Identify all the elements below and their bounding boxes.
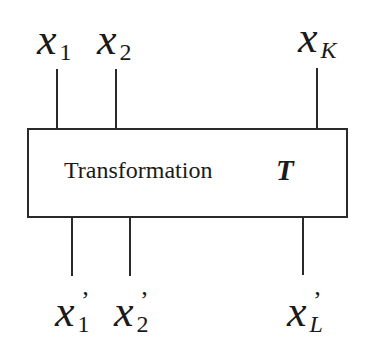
input-label-x1: x1 (37, 18, 72, 62)
transformation-label: Transformation (64, 157, 212, 184)
input-var-sub: 2 (120, 39, 132, 65)
transformation-symbol: T (276, 154, 294, 187)
input-var-sub: K (321, 37, 337, 63)
output-label-x1-prime: x’1 (55, 290, 90, 334)
output-var-sub: L (310, 311, 323, 337)
input-line-2 (115, 69, 117, 129)
input-var-sub: 1 (60, 39, 72, 65)
output-line-L (302, 216, 304, 275)
output-var-base: x (287, 287, 307, 336)
input-line-K (316, 68, 318, 129)
input-label-xK: xK (298, 16, 337, 60)
output-var-sub: 1 (78, 311, 90, 337)
output-line-2 (129, 216, 131, 276)
output-label-xL-prime: x’L (287, 290, 323, 334)
output-var-base: x (55, 287, 75, 336)
output-var-sub: 2 (137, 311, 149, 337)
output-line-1 (71, 216, 73, 276)
output-label-x2-prime: x’2 (114, 290, 149, 334)
input-var-base: x (97, 15, 117, 64)
output-var-base: x (114, 287, 134, 336)
input-var-base: x (37, 15, 57, 64)
input-line-1 (56, 69, 58, 129)
input-label-x2: x2 (97, 18, 132, 62)
transformation-box: Transformation T (27, 128, 348, 218)
input-var-base: x (298, 13, 318, 62)
